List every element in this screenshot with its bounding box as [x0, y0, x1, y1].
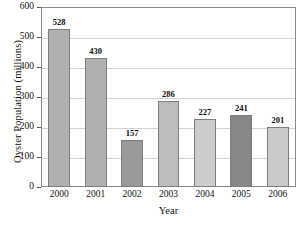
bar-slot: 430: [85, 7, 107, 187]
bar-slot: 157: [121, 7, 143, 187]
bar[interactable]: [158, 101, 180, 187]
bar-slot: 227: [194, 7, 216, 187]
x-tick-label: 2005: [223, 190, 259, 200]
y-tick-label: 100: [20, 152, 37, 162]
y-tick-label: 600: [20, 2, 37, 12]
y-tick-label: 400: [20, 62, 37, 72]
bar-value-label: 528: [38, 18, 80, 27]
bar[interactable]: [121, 140, 143, 187]
bar[interactable]: [48, 29, 70, 187]
bar-slot: 201: [267, 7, 289, 187]
bar-value-label: 430: [75, 47, 117, 56]
bar[interactable]: [267, 127, 289, 187]
y-tick-label: 0: [29, 182, 37, 192]
bar-chart: Oyster Population (millions) 01002003004…: [0, 0, 303, 226]
x-tick-label: 2006: [260, 190, 296, 200]
x-tick-label: 2004: [187, 190, 223, 200]
bar-value-label: 286: [148, 90, 190, 99]
x-axis-tick-labels: 2000200120022003200420052006: [41, 190, 296, 204]
bar-value-label: 201: [257, 116, 299, 125]
bar-value-label: 241: [220, 104, 262, 113]
bar[interactable]: [230, 115, 252, 187]
x-axis-title: Year: [41, 205, 296, 216]
bar-slot: 241: [230, 7, 252, 187]
y-axis-ticks: 0100200300400500600: [0, 0, 41, 226]
x-tick-label: 2002: [114, 190, 150, 200]
x-tick-label: 2003: [150, 190, 186, 200]
bar-slot: 286: [158, 7, 180, 187]
y-tick-label: 500: [20, 32, 37, 42]
x-tick-label: 2000: [41, 190, 77, 200]
bar-slot: 528: [48, 7, 70, 187]
y-tick-label: 300: [20, 92, 37, 102]
bar-value-label: 157: [111, 129, 153, 138]
bars-container: 528430157286227241201: [41, 7, 296, 187]
x-tick-label: 2001: [77, 190, 113, 200]
y-tick-label: 200: [20, 122, 37, 132]
bar[interactable]: [194, 119, 216, 187]
bar[interactable]: [85, 58, 107, 187]
